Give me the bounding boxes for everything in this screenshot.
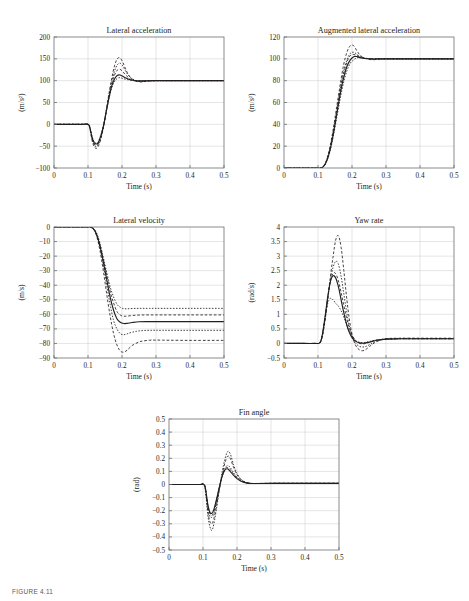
x-tick-label: 0 bbox=[52, 172, 56, 180]
series-nominal bbox=[54, 75, 224, 144]
y-tick-label: 100 bbox=[39, 77, 50, 85]
series-group bbox=[284, 235, 454, 350]
plot-frame bbox=[54, 227, 224, 358]
y-tick-label: 60 bbox=[273, 99, 281, 107]
figure-container: Lateral acceleration−100−500501001502000… bbox=[0, 0, 469, 601]
y-tick-label: −60 bbox=[39, 311, 51, 319]
panel-augmented-lateral-acceleration: Augmented lateral acceleration0204060801… bbox=[244, 22, 460, 200]
series-perturbed-3 bbox=[169, 451, 339, 530]
panel-lateral-acceleration: Lateral acceleration−100−500501001502000… bbox=[14, 22, 230, 200]
y-tick-label: 50 bbox=[43, 99, 51, 107]
x-tick-label: 0.5 bbox=[450, 172, 459, 180]
y-tick-label: −40 bbox=[39, 282, 51, 290]
y-tick-label: 2.5 bbox=[271, 267, 280, 275]
y-tick-label: 0 bbox=[161, 481, 165, 489]
y-tick-label: −0.3 bbox=[152, 520, 165, 528]
x-tick-label: 0.1 bbox=[84, 172, 93, 180]
x-tick-label: 0.2 bbox=[118, 172, 127, 180]
x-tick-label: 0.3 bbox=[382, 172, 391, 180]
x-tick-label: 0.3 bbox=[267, 554, 276, 562]
x-tick-label: 0.4 bbox=[186, 172, 195, 180]
series-nominal bbox=[284, 56, 454, 168]
series-perturbed-4 bbox=[54, 227, 224, 352]
chart-title: Lateral acceleration bbox=[107, 26, 172, 35]
chart-lateral-velocity: Lateral velocity−90−80−70−60−50−40−30−20… bbox=[14, 212, 230, 390]
series-group bbox=[54, 58, 224, 149]
x-tick-label: 0.2 bbox=[348, 172, 357, 180]
x-tick-label: 0.5 bbox=[220, 362, 229, 370]
series-group bbox=[169, 451, 339, 530]
x-tick-label: 0 bbox=[52, 362, 56, 370]
x-axis-label: Time (s) bbox=[241, 564, 267, 573]
x-tick-label: 0.5 bbox=[450, 362, 459, 370]
y-tick-label: 1 bbox=[276, 311, 280, 319]
series-group bbox=[284, 45, 454, 168]
y-tick-label: −10 bbox=[39, 238, 51, 246]
series-perturbed-3 bbox=[284, 58, 454, 169]
gridlines bbox=[54, 227, 224, 358]
x-axis-label: Time (s) bbox=[126, 372, 152, 381]
x-tick-label: 0.2 bbox=[118, 362, 127, 370]
x-axis-label: Time (s) bbox=[356, 182, 382, 191]
panel-lateral-velocity: Lateral velocity−90−80−70−60−50−40−30−20… bbox=[14, 212, 230, 390]
series-nominal bbox=[169, 469, 339, 514]
y-tick-label: 40 bbox=[273, 121, 281, 129]
series-perturbed-4 bbox=[169, 467, 339, 515]
panel-yaw-rate: Yaw rate−0.500.511.522.533.5400.10.20.30… bbox=[244, 212, 460, 390]
y-axis-label: (rad/s) bbox=[247, 282, 256, 302]
series-perturbed-1 bbox=[169, 465, 339, 517]
chart-fin-angle: Fin angle−0.5−0.4−0.3−0.2−0.100.10.20.30… bbox=[129, 404, 345, 582]
y-tick-label: 0 bbox=[276, 340, 280, 348]
y-tick-label: 100 bbox=[269, 55, 280, 63]
series-group bbox=[54, 227, 224, 352]
x-tick-label: 0.5 bbox=[220, 172, 229, 180]
y-tick-label: −0.2 bbox=[152, 507, 165, 515]
x-tick-label: 0 bbox=[167, 554, 171, 562]
x-tick-label: 0.4 bbox=[416, 362, 425, 370]
y-tick-label: −80 bbox=[39, 340, 51, 348]
chart-title: Fin angle bbox=[239, 408, 270, 417]
y-tick-label: 4 bbox=[276, 224, 280, 232]
y-tick-label: −20 bbox=[39, 253, 51, 261]
figure-caption: FIGURE 4.11 bbox=[12, 588, 162, 601]
y-axis-label: (m/s²) bbox=[17, 93, 26, 112]
series-perturbed-1 bbox=[284, 52, 454, 168]
series-perturbed-4 bbox=[284, 273, 454, 344]
panel-fin-angle: Fin angle−0.5−0.4−0.3−0.2−0.100.10.20.30… bbox=[129, 404, 345, 582]
x-tick-label: 0.1 bbox=[314, 172, 323, 180]
y-tick-label: −70 bbox=[39, 325, 51, 333]
x-tick-label: 0.2 bbox=[348, 362, 357, 370]
series-perturbed-2 bbox=[54, 58, 224, 149]
y-tick-label: −90 bbox=[39, 355, 51, 363]
gridlines bbox=[54, 37, 224, 168]
x-tick-label: 0.1 bbox=[199, 554, 208, 562]
y-tick-label: 200 bbox=[39, 34, 50, 42]
series-nominal bbox=[284, 276, 454, 344]
chart-title: Lateral velocity bbox=[113, 216, 166, 225]
chart-title: Augmented lateral acceleration bbox=[318, 26, 420, 35]
y-axis-label: (rad) bbox=[132, 477, 141, 492]
y-tick-label: 0 bbox=[46, 224, 50, 232]
series-perturbed-1 bbox=[54, 227, 224, 309]
y-tick-label: 3.5 bbox=[271, 238, 280, 246]
chart-title: Yaw rate bbox=[355, 216, 384, 225]
y-tick-label: −50 bbox=[39, 143, 51, 151]
series-perturbed-3 bbox=[284, 298, 454, 343]
series-perturbed-2 bbox=[284, 45, 454, 168]
x-axis-label: Time (s) bbox=[126, 182, 152, 191]
x-tick-label: 0.3 bbox=[152, 362, 161, 370]
y-tick-label: 0.2 bbox=[156, 455, 165, 463]
y-tick-label: −100 bbox=[35, 165, 50, 173]
series-perturbed-1 bbox=[284, 261, 454, 347]
y-tick-label: −0.1 bbox=[152, 494, 165, 502]
y-tick-label: 120 bbox=[269, 34, 280, 42]
y-tick-label: 0 bbox=[276, 165, 280, 173]
x-axis-label: Time (s) bbox=[356, 372, 382, 381]
series-perturbed-1 bbox=[54, 63, 224, 146]
x-tick-label: 0.2 bbox=[233, 554, 242, 562]
x-tick-label: 0.4 bbox=[416, 172, 425, 180]
chart-augmented-lateral-acceleration: Augmented lateral acceleration0204060801… bbox=[244, 22, 460, 200]
series-perturbed-2 bbox=[169, 456, 339, 524]
y-axis-label: (m/s²) bbox=[247, 93, 256, 112]
series-perturbed-4 bbox=[284, 54, 454, 168]
